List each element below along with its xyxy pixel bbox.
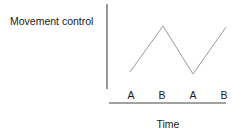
phase-label-a2: A [187,89,199,101]
phase-label-b2: B [218,89,230,101]
phase-label-a1: A [125,89,137,101]
data-line [130,26,226,74]
phase-label-b1: B [156,89,168,101]
diagram-canvas [0,0,241,129]
x-axis-label: Time [150,118,186,129]
